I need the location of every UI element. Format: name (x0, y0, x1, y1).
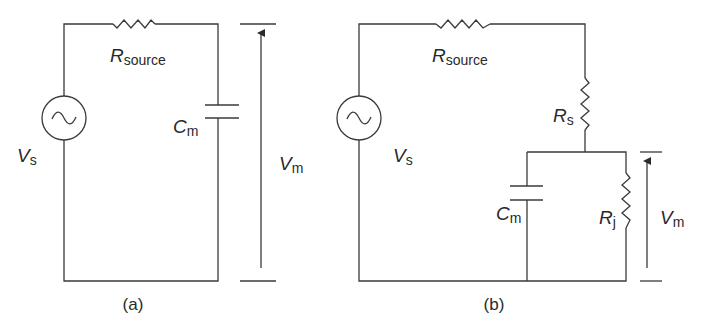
resistor-icon (622, 173, 630, 228)
caption-a: (a) (123, 295, 144, 314)
label-c-m: Cm (173, 116, 198, 139)
capacitor-icon (510, 186, 543, 200)
label-c-m: Cm (496, 203, 521, 226)
capacitor-icon (205, 105, 239, 118)
label-r-source: Rsource (432, 45, 488, 68)
panel-b: Rsource Vs Rs Cm Rj Vm (b) (337, 20, 684, 314)
label-r-j: Rj (599, 207, 616, 230)
resistor-icon (436, 20, 490, 28)
resistor-icon (113, 20, 155, 28)
ac-source-icon (337, 96, 381, 140)
voltage-measurement-arrow (240, 24, 276, 281)
label-v-s: Vs (17, 145, 37, 168)
caption-b: (b) (484, 295, 505, 314)
resistor-icon (581, 78, 589, 130)
label-r-source: Rsource (110, 45, 166, 68)
voltage-measurement-arrow (640, 152, 662, 281)
label-v-m: Vm (279, 153, 303, 176)
ac-source-icon (42, 96, 86, 140)
label-r-s: Rs (553, 105, 574, 128)
circuit-diagram: Rsource Vs Cm Vm (a) (0, 0, 704, 335)
label-v-s: Vs (393, 145, 413, 168)
label-v-m: Vm (660, 207, 684, 230)
panel-a: Rsource Vs Cm Vm (a) (17, 20, 303, 314)
